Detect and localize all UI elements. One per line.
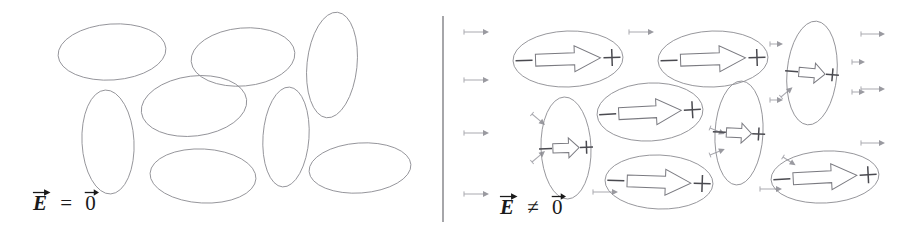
dipole-arrow-icon [680,45,746,73]
field-arrow-icon [760,186,782,192]
negative-charge-sign [661,59,678,61]
field-arrow-icon [530,149,547,164]
polarized-molecule [604,153,714,211]
field-arrow-icon [709,125,726,136]
right-panel-molecules [512,19,880,211]
field-arrow-group [464,29,885,197]
zero-symbol-left: 0 [85,193,96,214]
relation-operator-left: = [60,193,72,214]
field-arrow-icon [861,31,885,37]
relation-operator-right: ≠ [527,197,539,218]
dipole-arrow-icon [627,168,692,196]
field-arrow-icon [770,41,783,47]
field-arrow-icon [861,140,885,146]
molecule-ellipse [79,89,136,196]
polarized-molecule [537,96,595,200]
dipole-arrow-icon [793,162,858,191]
left-panel-molecules [56,10,412,206]
dipole-arrow-icon [553,138,580,159]
molecule-ellipse [56,20,168,83]
field-arrow-icon [770,97,783,103]
field-arrow-icon [464,77,489,83]
field-arrow-icon [861,86,885,92]
field-arrow-icon [852,89,865,95]
polarized-molecule [770,148,881,206]
polarized-molecule [596,80,705,143]
positive-charge-sign [693,175,711,193]
field-arrow-icon [464,191,489,197]
field-arrow-icon [852,59,865,65]
field-arrow-icon [629,29,654,35]
polarized-molecule [657,29,769,89]
figure-canvas [0,0,908,240]
polarization-figure: E = 0 E ≠ 0 [0,0,908,240]
field-arrow-icon [464,29,489,35]
molecule-ellipse [149,146,258,205]
field-symbol-right: E [500,197,515,218]
dipole-arrow-icon [726,122,752,143]
molecule-ellipse [302,10,363,121]
molecule-ellipse [138,70,251,142]
dipole-arrow-icon [798,62,826,84]
zero-symbol-right: 0 [552,197,563,218]
negative-charge-sign [599,113,616,115]
field-arrow-icon [464,130,489,136]
positive-charge-sign [603,49,621,67]
field-symbol-left: E [33,193,48,214]
molecule-ellipse [307,140,412,197]
field-arrow-icon [709,146,726,157]
positive-charge-sign [683,101,701,119]
left-panel-label: E = 0 [33,193,96,214]
dipole-arrow-icon [535,45,601,73]
negative-charge-sign [607,179,624,181]
dipole-arrow-icon [618,97,682,126]
positive-charge-sign [859,166,877,184]
negative-charge-sign [516,59,533,61]
right-panel-label: E ≠ 0 [500,197,563,218]
positive-charge-sign [748,49,766,67]
molecule-ellipse [189,24,298,91]
polarized-molecule [512,29,624,89]
molecule-ellipse [260,86,313,189]
field-arrow-icon [593,189,618,195]
polarized-molecule [781,19,844,127]
negative-charge-sign [773,178,790,180]
